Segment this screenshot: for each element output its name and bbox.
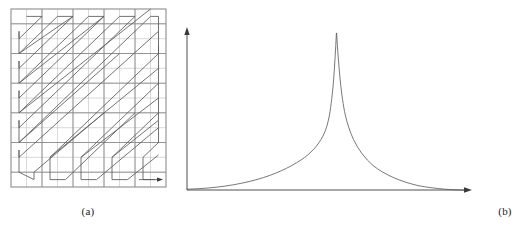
y-axis (184, 27, 189, 190)
arrow-up-icon (184, 27, 189, 35)
peak-curve (187, 33, 466, 190)
curve-endpoint-marker (465, 189, 468, 192)
panel-b-caption: (b) (465, 205, 516, 217)
peak-plot-svg (175, 0, 484, 200)
panel-b: (b) (175, 0, 484, 240)
panel-a: (a) (0, 0, 180, 240)
grid-scan-svg (0, 0, 180, 200)
panel-a-caption: (a) (48, 205, 128, 217)
x-axis (187, 187, 472, 192)
